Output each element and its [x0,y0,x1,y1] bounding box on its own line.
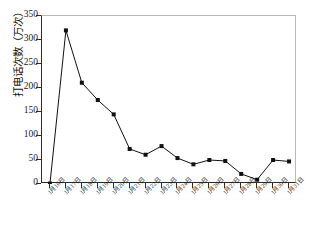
data-point-marker [239,172,243,176]
y-axis-tick-mark [36,183,41,184]
data-point-marker [112,112,116,116]
plot-area [42,16,295,182]
data-point-marker [207,158,211,162]
data-point-marker [175,156,179,160]
data-series [42,16,297,184]
data-point-marker [287,159,291,163]
data-point-marker [96,98,100,102]
data-point-marker [160,144,164,148]
data-point-marker [144,153,148,157]
data-point-marker [80,81,84,85]
data-point-marker [271,158,275,162]
y-axis-title: 打电话次数（万次） [10,0,25,127]
series-line [50,30,289,183]
data-point-marker [191,162,195,166]
data-point-marker [128,147,132,151]
plot-frame [41,15,296,183]
line-chart: 050100150200250300350 打电话次数（万次） 1月16日1月1… [0,0,319,229]
data-point-marker [223,159,227,163]
data-point-marker [64,28,68,32]
